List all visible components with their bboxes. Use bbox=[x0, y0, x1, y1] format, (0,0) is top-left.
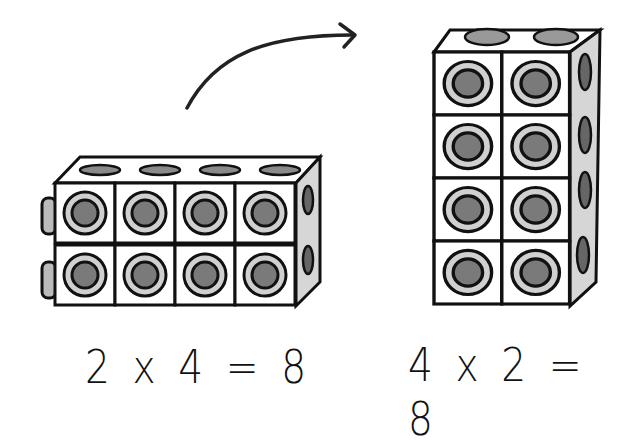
curved-arrow-icon bbox=[187, 24, 355, 108]
cube-block-2x4 bbox=[42, 157, 320, 306]
cube-block-4x2 bbox=[434, 29, 600, 306]
equation-right: 4 x 2 = 8 bbox=[408, 338, 598, 440]
equation-left: 2 x 4 = 8 bbox=[85, 340, 311, 394]
